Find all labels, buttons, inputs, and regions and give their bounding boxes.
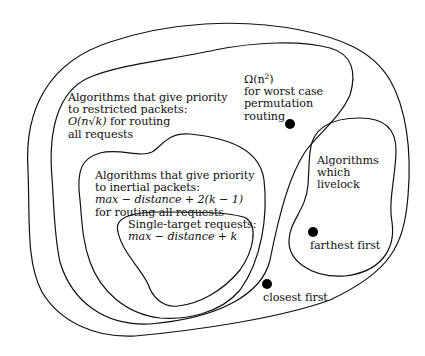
point-closest-first (262, 279, 272, 289)
lower-bound-line-4: routing (244, 111, 323, 123)
label-restricted-priority: Algorithms that give priority to restric… (68, 92, 227, 141)
label-closest-first: closest first (263, 292, 328, 304)
label-single-target: Single-target requests: max − distance +… (128, 219, 256, 243)
restricted-bound-text: for routing (106, 115, 170, 128)
point-farthest-first (308, 227, 318, 237)
single-target-line-2: max − distance + k (128, 231, 256, 243)
livelock-line-3: livelock (317, 179, 379, 191)
label-farthest-first: farthest first (310, 240, 380, 252)
region-livelock (289, 118, 396, 276)
label-lower-bound: Ω(n2) for worst case permutation routing (244, 74, 323, 123)
label-inertial-priority: Algorithms that give priority to inertia… (95, 170, 254, 219)
omega-close: ) (269, 73, 273, 86)
lower-bound-line-3: permutation (244, 98, 323, 110)
closest-first-text: closest first (263, 292, 328, 304)
restricted-line-4: all requests (68, 129, 227, 141)
omega-math: Ω(n (244, 73, 265, 86)
inertial-line-3: max − distance + 2(k − 1) (95, 194, 254, 206)
restricted-line-3: O(n√k) for routing (68, 116, 227, 128)
label-livelock: Algorithms which livelock (317, 155, 379, 192)
farthest-first-text: farthest first (310, 240, 380, 252)
diagram-canvas: Algorithms that give priority to restric… (0, 0, 425, 356)
restricted-bound-math: O(n√k) (68, 115, 106, 128)
inertial-line-4: for routing all requests (95, 207, 254, 219)
